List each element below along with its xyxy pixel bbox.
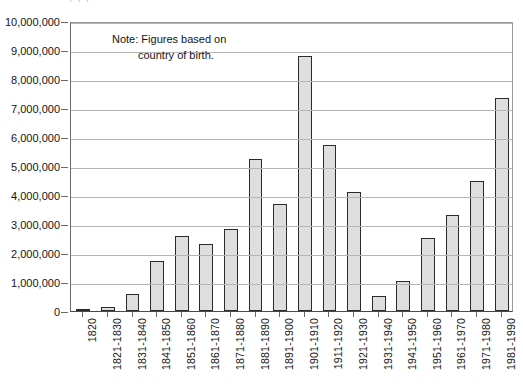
bar bbox=[495, 98, 509, 311]
y-axis-tick-mark bbox=[61, 312, 68, 313]
x-axis-tick-mark bbox=[353, 312, 354, 317]
bar bbox=[298, 56, 312, 311]
gridline bbox=[71, 255, 512, 256]
gridline bbox=[71, 81, 512, 82]
x-axis-tick-mark bbox=[82, 312, 83, 317]
y-axis-tick-label: 0 bbox=[54, 306, 60, 318]
gridline bbox=[71, 168, 512, 169]
y-axis-tick-mark bbox=[61, 254, 68, 255]
immigration-bar-chart: ' ' ' 01,000,0002,000,0003,000,0004,000,… bbox=[0, 0, 523, 387]
gridline bbox=[71, 284, 512, 285]
x-axis-tick-label: 1851-1860 bbox=[185, 318, 197, 370]
note-line-1: Note: Figures based on bbox=[112, 31, 302, 47]
y-axis-tick-mark bbox=[61, 22, 68, 23]
clipped-top-text: ' ' ' bbox=[70, 0, 490, 6]
x-axis-tick-mark bbox=[107, 312, 108, 317]
bar bbox=[396, 281, 410, 311]
y-axis-tick-mark bbox=[61, 138, 68, 139]
bar bbox=[101, 307, 115, 311]
x-axis-tick-label: 1861-1870 bbox=[209, 318, 221, 370]
note-line-2: country of birth. bbox=[112, 47, 302, 63]
bar bbox=[421, 238, 435, 311]
bar bbox=[126, 294, 140, 311]
x-axis-tick-label: 1820 bbox=[86, 318, 98, 342]
x-axis-tick-mark bbox=[230, 312, 231, 317]
bar bbox=[150, 261, 164, 311]
y-axis-tick-label: 7,000,000 bbox=[11, 103, 60, 115]
bar bbox=[76, 309, 90, 311]
y-axis-tick-mark bbox=[61, 196, 68, 197]
gridline bbox=[71, 197, 512, 198]
gridline bbox=[71, 226, 512, 227]
bar bbox=[224, 229, 238, 311]
x-axis-tick-label: 1961-1970 bbox=[455, 318, 467, 370]
y-axis-tick-label: 9,000,000 bbox=[11, 45, 60, 57]
x-axis-tick-mark bbox=[328, 312, 329, 317]
y-axis-tick-mark bbox=[61, 283, 68, 284]
x-axis-tick-mark bbox=[378, 312, 379, 317]
y-axis-tick-label: 10,000,000 bbox=[5, 16, 60, 28]
y-axis-tick-label: 3,000,000 bbox=[11, 219, 60, 231]
x-axis-tick-label: 1941-1950 bbox=[406, 318, 418, 370]
x-axis-tick-label: 1841-1850 bbox=[160, 318, 172, 370]
y-axis-tick-label: 6,000,000 bbox=[11, 132, 60, 144]
plot-area bbox=[70, 22, 513, 312]
x-axis-tick-label: 1871-1880 bbox=[234, 318, 246, 370]
x-axis-tick-label: 1881-1890 bbox=[259, 318, 271, 370]
x-axis-tick-label: 1821-1830 bbox=[111, 318, 123, 370]
bar bbox=[323, 145, 337, 311]
x-axis-tick-label: 1891-1900 bbox=[283, 318, 295, 370]
bars-layer bbox=[71, 23, 512, 311]
bar bbox=[199, 244, 213, 311]
x-axis-tick-mark bbox=[304, 312, 305, 317]
chart-note: Note: Figures based on country of birth. bbox=[112, 31, 302, 63]
x-axis-tick-label: 1971-1980 bbox=[480, 318, 492, 370]
bar bbox=[446, 215, 460, 311]
x-axis-tick-label: 1921-1930 bbox=[357, 318, 369, 370]
bar bbox=[347, 192, 361, 311]
y-axis-tick-label: 2,000,000 bbox=[11, 248, 60, 260]
x-axis-labels: 18201821-18301831-18401841-18501851-1860… bbox=[70, 318, 513, 387]
x-axis-tick-label: 1981-1990 bbox=[505, 318, 517, 370]
bar bbox=[470, 181, 484, 311]
x-axis-tick-mark bbox=[156, 312, 157, 317]
x-axis-tick-mark bbox=[476, 312, 477, 317]
x-axis-tick-label: 1901-1910 bbox=[308, 318, 320, 370]
x-axis-tick-label: 1951-1960 bbox=[431, 318, 443, 370]
x-axis-tick-mark bbox=[255, 312, 256, 317]
y-axis-tick-label: 8,000,000 bbox=[11, 74, 60, 86]
x-axis-tick-label: 1911-1920 bbox=[332, 318, 344, 369]
y-axis-tick-label: 5,000,000 bbox=[11, 161, 60, 173]
y-axis-tick-label: 4,000,000 bbox=[11, 190, 60, 202]
x-axis-tick-mark bbox=[279, 312, 280, 317]
gridline bbox=[71, 110, 512, 111]
x-axis-tick-label: 1831-1840 bbox=[136, 318, 148, 370]
x-axis-tick-mark bbox=[501, 312, 502, 317]
bar bbox=[372, 296, 386, 311]
x-axis-tick-mark bbox=[132, 312, 133, 317]
gridline bbox=[71, 23, 512, 24]
y-axis-tick-mark bbox=[61, 51, 68, 52]
y-axis-tick-mark bbox=[61, 109, 68, 110]
x-axis-tick-mark bbox=[451, 312, 452, 317]
y-axis-tick-label: 1,000,000 bbox=[11, 277, 60, 289]
x-axis-tick-mark bbox=[402, 312, 403, 317]
x-axis-tick-mark bbox=[181, 312, 182, 317]
x-axis-tick-label: 1931-1940 bbox=[382, 318, 394, 370]
y-axis-tick-mark bbox=[61, 225, 68, 226]
y-axis-tick-mark bbox=[61, 167, 68, 168]
y-axis: 01,000,0002,000,0003,000,0004,000,0005,0… bbox=[0, 0, 70, 387]
gridline bbox=[71, 139, 512, 140]
bar bbox=[175, 236, 189, 311]
bar bbox=[273, 204, 287, 311]
x-axis-tick-mark bbox=[205, 312, 206, 317]
bar bbox=[249, 159, 263, 311]
x-axis-tick-mark bbox=[427, 312, 428, 317]
y-axis-tick-mark bbox=[61, 80, 68, 81]
